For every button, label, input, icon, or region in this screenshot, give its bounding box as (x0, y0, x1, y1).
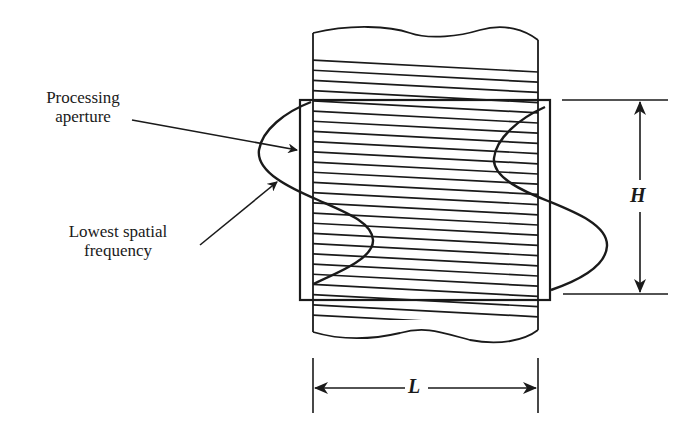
fringe-line (312, 284, 538, 296)
fringe-line (312, 213, 538, 225)
processing-aperture-label-line2: aperture (24, 107, 142, 126)
fringe-line (312, 101, 538, 113)
film-bottom-edge (313, 330, 538, 342)
fringe-line (312, 121, 538, 133)
fringe-line (312, 244, 538, 256)
fringe-line (312, 70, 538, 82)
processing-aperture-label-line1: Processing (24, 88, 142, 107)
lowest-frequency-label-line1: Lowest spatial (38, 222, 198, 241)
fringe-line (312, 60, 538, 72)
fringe-line (312, 182, 538, 194)
lowest-spatial-frequency-label: Lowest spatial frequency (38, 222, 198, 260)
fringe-line (312, 162, 538, 174)
length-dimension-label: L (405, 375, 423, 398)
fringe-line (312, 193, 538, 205)
fringe-line (312, 315, 538, 327)
aperture-diagram (0, 0, 688, 433)
fringe-line (312, 152, 538, 164)
length-dimension (313, 358, 538, 413)
fringe-line (312, 254, 538, 266)
lowest-frequency-leader-arrow (200, 182, 277, 245)
fringe-line (312, 264, 538, 276)
fringe-line (312, 111, 538, 123)
fringe-line (312, 142, 538, 154)
lowest-frequency-label-line2: frequency (38, 241, 198, 260)
height-dimension (562, 100, 668, 294)
processing-aperture-label: Processing aperture (24, 88, 142, 126)
fringe-line (312, 223, 538, 235)
fringe-line (312, 233, 538, 245)
height-dimension-label: H (627, 184, 649, 207)
film-top-edge (313, 27, 538, 40)
fringe-line (312, 274, 538, 286)
fringe-line (312, 80, 538, 92)
fringe-line (312, 305, 538, 317)
